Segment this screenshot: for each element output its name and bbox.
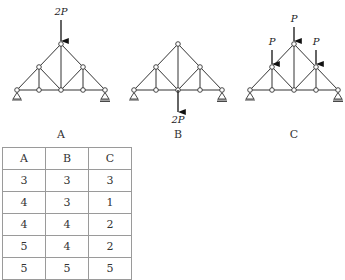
table-cell: 5 [3,258,46,280]
table-cell: 3 [46,170,89,192]
table-row: 5 5 5 [3,258,132,280]
table-header-cell: B [46,148,89,170]
table-header-cell: C [89,148,132,170]
table-cell: 5 [3,236,46,258]
table-cell: 4 [3,214,46,236]
truss-c [245,27,343,102]
table-cell: 5 [89,258,132,280]
diagram-label-a: A [57,128,65,141]
table-header-row: A B C [3,148,132,170]
table-row: 3 3 3 [3,170,132,192]
table-cell: 1 [89,192,132,214]
table-cell: 4 [46,214,89,236]
load-label-b: 2P [171,114,184,125]
table-cell: 4 [46,236,89,258]
truss-b [129,42,227,112]
table-cell: 4 [3,192,46,214]
load-label-c-apex: P [291,13,298,24]
table-cell: 5 [46,258,89,280]
table-cell: 3 [3,170,46,192]
load-label-c-right: P [313,36,320,47]
truss-a [12,20,110,102]
table-cell: 2 [89,236,132,258]
answer-table: A B C 3 3 3 4 3 1 4 4 2 5 4 2 5 5 5 [2,147,132,280]
diagram-label-c: C [290,128,298,141]
table-row: 4 3 1 [3,192,132,214]
table-row: 5 4 2 [3,236,132,258]
table-header-cell: A [3,148,46,170]
table-cell: 3 [46,192,89,214]
load-label-c-left: P [269,36,276,47]
load-label-a: 2P [54,6,67,17]
table-cell: 3 [89,170,132,192]
table-row: 4 4 2 [3,214,132,236]
diagram-label-b: B [174,128,182,141]
table-cell: 2 [89,214,132,236]
